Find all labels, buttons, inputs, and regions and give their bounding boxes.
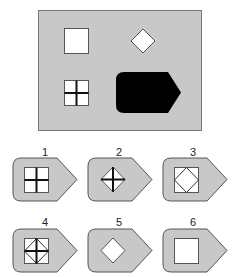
puzzle-canvas: 1 2 3 4 5 6 — [0, 0, 238, 277]
square-cross-icon — [65, 81, 89, 106]
option-3[interactable]: 3 — [163, 146, 227, 201]
option-label: 1 — [42, 146, 48, 158]
option-label: 6 — [190, 216, 196, 228]
option-label: 3 — [190, 146, 196, 158]
option-2[interactable]: 2 — [88, 146, 152, 201]
square-icon — [65, 29, 89, 54]
option-label: 4 — [42, 216, 48, 228]
option-4[interactable]: 4 — [13, 216, 77, 272]
option-6[interactable]: 6 — [163, 216, 227, 272]
option-1[interactable]: 1 — [13, 146, 77, 201]
question-panel — [39, 11, 202, 131]
option-label: 5 — [116, 216, 122, 228]
answer-slot-tag — [116, 72, 181, 113]
option-5[interactable]: 5 — [88, 216, 152, 272]
option-label: 2 — [116, 146, 122, 158]
panel-background — [39, 11, 202, 131]
